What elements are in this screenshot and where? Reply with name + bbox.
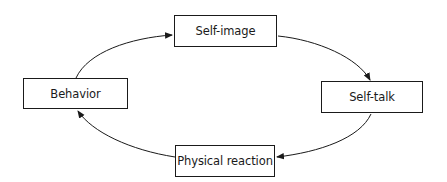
node-self-talk: Self-talk <box>321 81 423 113</box>
node-label: Self-image <box>196 24 256 38</box>
node-physical-reaction: Physical reaction <box>175 145 275 177</box>
node-behavior: Behavior <box>23 78 128 109</box>
arrow-behavior-to-self-image <box>76 35 172 78</box>
arrow-self-image-to-self-talk <box>278 36 370 80</box>
arrow-physical-reaction-to-behavior <box>78 111 175 157</box>
node-self-image: Self-image <box>174 15 277 47</box>
node-label: Self-talk <box>349 90 395 104</box>
node-label: Behavior <box>50 87 100 101</box>
node-label: Physical reaction <box>177 154 273 168</box>
cycle-diagram: Self-image Self-talk Physical reaction B… <box>0 0 447 182</box>
arrow-self-talk-to-physical-reaction <box>277 114 371 157</box>
